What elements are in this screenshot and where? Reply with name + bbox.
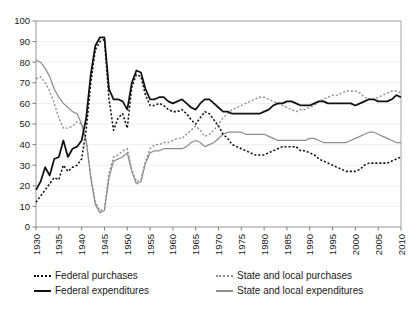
- legend-item-federal-expenditures[interactable]: Federal expenditures: [34, 283, 149, 298]
- x-axis-tick-label: 1940: [76, 234, 87, 255]
- legend-item-state-local-expenditures[interactable]: State and local expenditures: [216, 283, 363, 298]
- y-axis-tick-label: 50: [19, 118, 30, 129]
- line-chart-plot: 0102030405060708090100 19301935194019451…: [0, 0, 417, 268]
- chart-title: [0, 0, 417, 12]
- x-axis-tick-label: 2000: [350, 234, 361, 255]
- x-axis-tick-label: 2005: [373, 234, 384, 255]
- y-axis-tick-label: 10: [19, 201, 30, 212]
- x-axis-tick-label: 1995: [327, 234, 338, 255]
- y-axis-tick-label: 70: [19, 77, 30, 88]
- legend-label: State and local purchases: [237, 270, 352, 281]
- x-axis-tick-label: 1985: [282, 234, 293, 255]
- y-axis-tick-label: 100: [14, 15, 30, 26]
- x-axis-tick-label: 1945: [99, 234, 110, 255]
- x-axis-tick-label: 1965: [190, 234, 201, 255]
- legend-item-state-local-purchases[interactable]: State and local purchases: [216, 268, 363, 283]
- data-series-group: [36, 37, 401, 212]
- y-axis-tick-label: 60: [19, 98, 30, 109]
- legend-label: Federal expenditures: [55, 285, 149, 296]
- x-axis-tick-label: 1930: [31, 234, 42, 255]
- y-axis-tick-label: 20: [19, 180, 30, 191]
- y-axis-tick-label: 30: [19, 160, 30, 171]
- legend-column-left: Federal purchases Federal expenditures: [34, 268, 149, 298]
- x-axis-tick-label: 1990: [304, 234, 315, 255]
- x-axis-tick-label: 1950: [122, 234, 133, 255]
- y-axis-tick-label: 90: [19, 36, 30, 47]
- x-axis-labels: 1930193519401945195019551960196519701975…: [31, 234, 407, 255]
- x-axis-tick-label: 1960: [167, 234, 178, 255]
- x-axis-tick-label: 1970: [213, 234, 224, 255]
- y-axis-ticks: [33, 21, 37, 227]
- y-axis-tick-label: 40: [19, 139, 30, 150]
- x-axis-tick-label: 1975: [236, 234, 247, 255]
- x-axis-tick-label: 1935: [53, 234, 64, 255]
- x-axis-tick-label: 1955: [145, 234, 156, 255]
- chart-legend: Federal purchases Federal expenditures S…: [0, 268, 417, 312]
- legend-swatch-dotted-gray-icon: [216, 271, 233, 281]
- legend-swatch-dotted-black-icon: [34, 271, 51, 281]
- y-axis-tick-label: 80: [19, 57, 30, 68]
- series-line-federal-expenditures: [36, 37, 401, 189]
- legend-swatch-solid-black-icon: [34, 286, 51, 296]
- x-axis-tick-label: 1980: [259, 234, 270, 255]
- series-line-state-and-local-purchases: [36, 77, 401, 211]
- chart-container: 0102030405060708090100 19301935194019451…: [0, 0, 417, 314]
- x-axis-ticks: [36, 227, 401, 231]
- legend-item-federal-purchases[interactable]: Federal purchases: [34, 268, 149, 283]
- legend-label: State and local expenditures: [237, 285, 363, 296]
- x-axis-tick-label: 2010: [396, 234, 407, 255]
- legend-label: Federal purchases: [55, 270, 138, 281]
- y-axis-labels: 0102030405060708090100: [14, 15, 30, 232]
- y-axis-tick-label: 0: [25, 221, 30, 232]
- legend-swatch-solid-gray-icon: [216, 286, 233, 296]
- legend-column-right: State and local purchases State and loca…: [216, 268, 363, 298]
